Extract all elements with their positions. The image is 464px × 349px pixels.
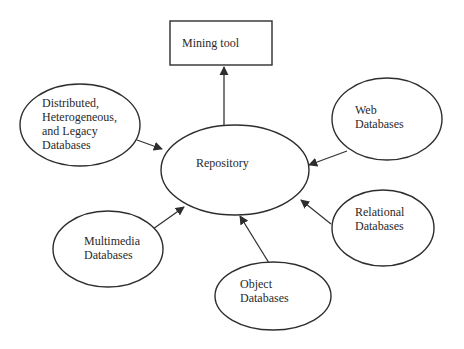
relational-databases-label: RelationalDatabases (355, 205, 405, 233)
arrow-object-databases-to-repository (240, 216, 269, 263)
multimedia-databases-label: MultimediaDatabases (84, 234, 141, 262)
repository-ellipse (161, 125, 309, 215)
web-databases-label-line: Databases (355, 117, 404, 131)
node-repository: Repository (161, 125, 309, 215)
node-object-databases: ObjectDatabases (215, 262, 331, 330)
arrow-relational-databases-to-repository (301, 200, 331, 224)
distributed-databases-label-line: Distributed, (42, 96, 99, 110)
arrow-web-databases-to-repository (309, 151, 347, 165)
multimedia-databases-label-line: Databases (84, 248, 133, 262)
arrow-multimedia-databases-to-repository (153, 207, 184, 229)
repository-label-line: Repository (196, 156, 249, 170)
repository-diagram: Mining toolRepositoryDistributed,Heterog… (0, 0, 464, 349)
distributed-databases-label-line: and Legacy (42, 124, 98, 138)
node-multimedia-databases: MultimediaDatabases (53, 211, 163, 287)
relational-databases-label-line: Relational (355, 205, 405, 219)
distributed-databases-label-line: Heterogeneous, (42, 110, 117, 124)
object-databases-label-line: Object (240, 277, 273, 291)
arrow-distributed-databases-to-repository (137, 140, 162, 149)
repository-label: Repository (196, 156, 249, 170)
node-distributed-databases: Distributed,Heterogeneous,and LegacyData… (20, 84, 140, 166)
web-databases-label-line: Web (355, 103, 377, 117)
relational-databases-label-line: Databases (355, 219, 404, 233)
mining-tool-label: Mining tool (182, 36, 240, 50)
nodes-layer: Mining toolRepositoryDistributed,Heterog… (20, 21, 442, 330)
node-relational-databases: RelationalDatabases (332, 190, 434, 266)
distributed-databases-label-line: Databases (42, 138, 91, 152)
mining-tool-label-line: Mining tool (182, 36, 240, 50)
multimedia-databases-label-line: Multimedia (84, 234, 141, 248)
object-databases-label-line: Databases (240, 291, 289, 305)
node-web-databases: WebDatabases (332, 78, 442, 160)
node-mining-tool: Mining tool (170, 21, 272, 65)
